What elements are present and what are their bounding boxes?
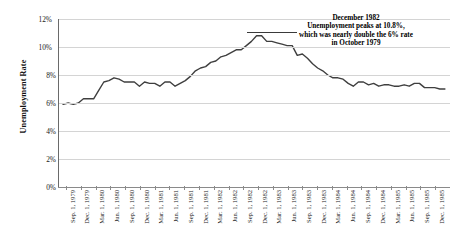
y-tick-12: 12% [26,16,52,23]
x-tick-mark [288,186,289,190]
y-tick-2: 2% [30,156,56,163]
x-tick-mark [214,186,215,190]
x-tick-label: Dec. 1, 1980 [143,190,150,224]
annotation-line-4: in October 1979 [258,39,454,47]
x-tick-label: Sep. 1, 1984 [364,190,371,223]
x-tick-mark [81,186,82,190]
x-tick-mark [125,186,126,190]
x-tick-label: Dec. 1, 1983 [320,190,327,224]
x-tick-label: Jun. 1, 1985 [408,190,415,222]
gridline-2 [58,159,450,160]
gridline-4 [58,131,450,132]
y-tick-10: 10% [26,44,52,51]
y-tick-0: 0% [30,184,56,191]
x-tick-mark [110,186,111,190]
x-tick-label: Mar. 1, 1984 [334,190,341,224]
y-axis-line [58,19,59,187]
x-tick-label: Mar. 1, 1981 [157,190,164,224]
x-tick-label: Dec. 1, 1984 [379,190,386,224]
x-tick-label: Jun. 1, 1981 [172,190,179,222]
x-tick-mark [273,186,274,190]
peak-annotation: December 1982 Unemployment peaks at 10.8… [258,14,454,48]
x-tick-label: Mar. 1, 1983 [275,190,282,224]
x-tick-label: Sep. 1, 1979 [69,190,76,223]
x-tick-mark [332,186,333,190]
x-tick-mark [155,186,156,190]
x-axis-tick-labels: Sep. 1, 1979Dec. 1, 1979Mar. 1, 1980Jun.… [58,190,450,248]
x-tick-label: Sep. 1, 1981 [187,190,194,223]
annotation-line-1: December 1982 [258,14,454,22]
x-tick-label: Jun. 1, 1980 [113,190,120,222]
x-tick-mark [66,186,67,190]
x-tick-label: Jun. 1, 1983 [290,190,297,222]
x-tick-label: Mar. 1, 1985 [394,190,401,224]
y-tick-6: 6% [30,100,56,107]
x-tick-label: Dec. 1, 1982 [261,190,268,224]
x-tick-label: Mar. 1, 1982 [216,190,223,224]
x-tick-mark [435,186,436,190]
x-tick-label: Jun. 1, 1982 [231,190,238,222]
x-tick-label: Dec. 1, 1979 [83,190,90,224]
gridline-6 [58,103,450,104]
y-tick-4: 4% [30,128,56,135]
y-tick-8: 8% [30,72,56,79]
x-tick-label: Sep. 1, 1980 [128,190,135,223]
x-tick-label: Sep. 1, 1985 [423,190,430,223]
x-tick-mark [96,186,97,190]
annotation-line-2: Unemployment peaks at 10.8%, [258,22,454,30]
x-tick-mark [406,186,407,190]
x-tick-mark [229,186,230,190]
x-tick-label: Sep. 1, 1983 [305,190,312,223]
x-tick-mark [302,186,303,190]
x-tick-mark [347,186,348,190]
x-tick-mark [243,186,244,190]
x-tick-mark [169,186,170,190]
x-tick-mark [258,186,259,190]
x-tick-label: Mar. 1, 1980 [98,190,105,224]
x-tick-mark [391,186,392,190]
x-tick-label: Sep. 1, 1982 [246,190,253,223]
x-tick-label: Dec. 1, 1985 [438,190,445,224]
x-tick-label: Dec. 1, 1981 [202,190,209,224]
x-tick-label: Jun. 1, 1984 [349,190,356,222]
x-tick-mark [420,186,421,190]
x-tick-mark [199,186,200,190]
annotation-line-3: which was nearly double the 6% rate [258,31,454,39]
x-tick-mark [140,186,141,190]
x-tick-mark [317,186,318,190]
x-tick-mark [376,186,377,190]
unemployment-rate-chart: Unemployment Rate 0% 2% 4% 6% 8% 10% 12%… [0,0,459,248]
gridline-8 [58,75,450,76]
x-tick-mark [184,186,185,190]
x-tick-mark [361,186,362,190]
